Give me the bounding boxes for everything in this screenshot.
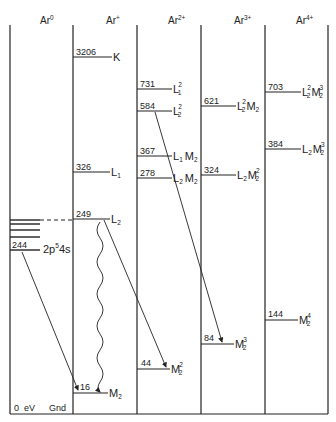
ground-label: Gnd	[49, 403, 66, 413]
header-ar3: Ar3+	[234, 14, 252, 26]
ar2-level-value: 731	[140, 79, 155, 89]
ar3-level-label: L2M22	[237, 167, 260, 182]
ar1-level-label: M2	[109, 387, 122, 400]
ar4-level-value: 384	[268, 139, 283, 149]
header-ar4: Ar4+	[296, 14, 314, 26]
ar1-level-label: L1	[111, 166, 121, 179]
ar4-level-label: M42	[299, 312, 311, 327]
ar2-level-label: L21	[173, 81, 182, 96]
ar1-level-label: L2	[111, 213, 121, 226]
ar0-level-244-value: 244	[12, 240, 27, 250]
ar1-level-value: 249	[76, 209, 91, 219]
ar3-level-value: 324	[204, 165, 219, 175]
ar4-level-value: 144	[268, 309, 283, 319]
ar1-level-value: 3206	[76, 47, 96, 57]
ar2-level-label: M22	[171, 361, 183, 376]
ar4-level-label: L22M32	[302, 84, 324, 99]
ar2-level-value: 44	[141, 358, 151, 368]
ar4-level-value: 703	[268, 82, 283, 92]
header-ar2: Ar2+	[168, 14, 186, 26]
ar2-level-value: 278	[140, 168, 155, 178]
ar2-level-value: 584	[140, 101, 155, 111]
ar2-level-label: L1M2	[173, 150, 198, 163]
column-headers: Ar0 Ar+ Ar2+ Ar3+ Ar4+	[40, 14, 314, 26]
ar4-levels	[265, 92, 301, 320]
ar2-level-label: L22	[173, 103, 182, 118]
wavy-transition	[97, 222, 103, 392]
ar2-levels	[137, 89, 172, 369]
ar1-level-label: K	[113, 51, 121, 63]
ar1-level-value: 326	[76, 162, 91, 172]
ar3-levels	[201, 106, 236, 344]
header-ar1: Ar+	[106, 14, 120, 26]
ar2-level-label: L2M2	[173, 172, 198, 185]
ar3-level-label: L22M2	[237, 98, 260, 113]
ar3-level-value: 84	[204, 333, 214, 343]
ar4-level-label: L2M32	[302, 141, 325, 156]
ar1-level-value: 16	[80, 382, 90, 392]
ar3-level-value: 621	[204, 96, 219, 106]
ground-unit: eV	[24, 403, 35, 413]
ground-zero: 0	[14, 403, 19, 413]
ar2-level-value: 367	[140, 146, 155, 156]
header-ar0: Ar0	[40, 14, 54, 26]
ar0-level-244-label: 2p54s	[43, 242, 71, 255]
ar3-level-label: M32	[235, 336, 247, 351]
energy-level-diagram: Ar0 Ar+ Ar2+ Ar3+ Ar4+ 244 2p54s 0 eV Gn…	[0, 0, 336, 422]
